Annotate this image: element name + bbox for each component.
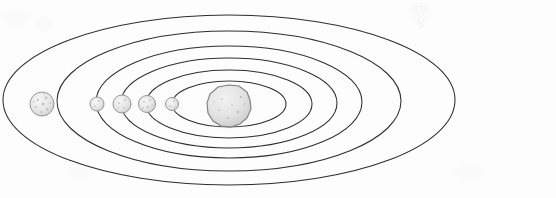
planet-5 [26,88,58,120]
planet-4 [88,95,107,114]
sun [199,78,259,134]
planet-1 [163,95,181,113]
solar-system-diagram [0,0,556,198]
planet-2 [136,93,159,116]
planet-3 [110,92,134,116]
sketch-canvas: Solar system orbital diagram (pencil ske… [0,0,556,198]
